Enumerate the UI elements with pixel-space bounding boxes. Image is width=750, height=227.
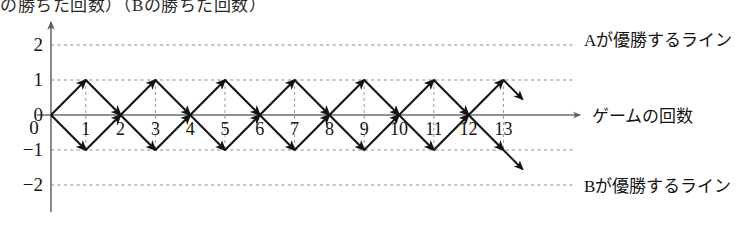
lattice-edge-14 [295,80,330,115]
lattice-edge-26 [503,80,522,99]
lattice-edge-8 [190,80,225,115]
x-tick-7: 7 [280,120,310,138]
x-tick-5: 5 [210,120,240,138]
lattice-edge-22 [434,80,469,115]
x-tick-9: 9 [349,120,379,138]
lattice-edge-24 [469,80,504,115]
figure-canvas: の勝ちた回数）（Bの勝ちた回数） 210−1−2 123456789101112… [0,0,750,227]
lattice-edge-4 [121,80,156,115]
label-b-wins-line: Bが優勝するライン [584,178,731,195]
label-x-axis-games: ゲームの回数 [592,108,693,125]
lattice-edge-6 [155,80,190,115]
x-tick-11: 11 [419,120,449,138]
lattice-edge-2 [86,80,121,115]
y-tick-1: 1 [5,70,43,89]
x-tick-13: 13 [488,120,518,138]
x-tick-12: 12 [454,120,484,138]
x-tick-3: 3 [140,120,170,138]
lattice-edge-10 [225,80,260,115]
lattice-edge-20 [399,80,434,115]
lattice-edge-27 [503,150,522,169]
origin-label: 0 [23,118,45,137]
lattice-edge-16 [329,80,364,115]
y-tick--2: −2 [5,175,43,194]
x-tick-6: 6 [245,120,275,138]
x-tick-1: 1 [71,120,101,138]
x-tick-10: 10 [384,120,414,138]
lattice-edge-18 [364,80,399,115]
lattice-edge-0 [51,80,86,115]
y-tick--1: −1 [5,140,43,159]
x-tick-8: 8 [314,120,344,138]
lattice-edge-12 [260,80,295,115]
y-tick-2: 2 [5,35,43,54]
x-tick-4: 4 [175,120,205,138]
x-tick-2: 2 [106,120,136,138]
label-a-wins-line: Aが優勝するライン [584,32,732,49]
